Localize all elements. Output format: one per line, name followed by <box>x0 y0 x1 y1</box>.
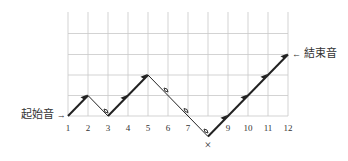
tick-1: 1 <box>66 124 71 133</box>
start-arrow-icon: → <box>57 110 66 120</box>
start-label: 起始音 → <box>21 109 66 120</box>
tick-2: 2 <box>86 124 91 133</box>
tick-11: 11 <box>264 124 273 133</box>
tick-12: 12 <box>284 124 293 133</box>
end-label: ← 結束音 <box>292 48 337 59</box>
tick-9: 9 <box>226 124 231 133</box>
tick-7: 7 <box>186 124 191 133</box>
tick-4: 4 <box>126 124 131 133</box>
tick-3: 3 <box>106 124 111 133</box>
skip-mark-icon: × <box>205 139 212 151</box>
end-arrow-icon: ← <box>292 49 301 59</box>
grid <box>68 12 288 116</box>
tick-5: 5 <box>146 124 151 133</box>
end-label-text: 結束音 <box>304 47 337 59</box>
open-diamond-markers <box>104 88 208 133</box>
tick-6: 6 <box>166 124 171 133</box>
tick-10: 10 <box>244 124 253 133</box>
start-label-text: 起始音 <box>21 108 54 120</box>
melody-contour-diagram <box>0 0 348 161</box>
